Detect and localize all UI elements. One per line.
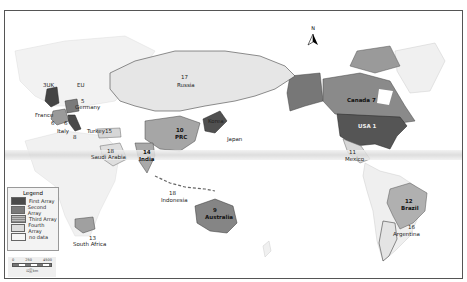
legend-swatch <box>11 206 25 214</box>
label-russia: Russia <box>177 83 195 89</box>
map-frame: N 3UK EU 5 Germany France 6 6 Italy 8 Tu… <box>4 10 463 279</box>
label-argentina-rank: 16 <box>408 225 415 231</box>
legend-item-second-array: Second Array <box>11 205 58 214</box>
label-prc-rank: 10 <box>176 128 184 134</box>
world-map <box>5 11 463 279</box>
legend-item-fourth-array: Fourth Array <box>11 223 58 232</box>
legend-swatch <box>11 224 25 232</box>
label-japan: Japan <box>227 137 242 143</box>
scan-artifact-band <box>5 150 462 160</box>
legend-swatch <box>11 215 26 223</box>
legend-swatch <box>11 197 26 205</box>
label-brazil: Brazil <box>401 206 419 212</box>
label-canada: Canada 7 <box>347 98 376 104</box>
label-indonesia: Indonesia <box>161 198 188 204</box>
north-arrow: N <box>306 25 320 43</box>
legend-swatch <box>11 233 26 241</box>
map-legend: Legend First Array Second Array Third Ar… <box>7 187 59 251</box>
label-india: India <box>139 157 155 163</box>
label-italy-rank: 6 <box>64 121 68 127</box>
label-uk: 3UK <box>43 83 54 89</box>
label-prc: PRC <box>175 135 187 141</box>
label-australia: Australia <box>205 215 233 221</box>
label-russia-rank: 17 <box>181 75 188 81</box>
label-france-rank: 6 <box>51 121 55 127</box>
label-usa: USA 1 <box>358 124 376 130</box>
label-mexico: Mexico <box>345 157 364 163</box>
label-india-rank: 14 <box>143 150 151 156</box>
label-saudi-arabia: Saudi Arabia <box>91 155 126 161</box>
label-australia-rank: 9 <box>213 208 217 214</box>
label-argentina: Argentina <box>393 232 420 238</box>
label-south-africa: South Africa <box>73 242 106 248</box>
label-germany: Germany <box>75 105 100 111</box>
label-indonesia-rank: 18 <box>169 191 176 197</box>
label-turkey: Turkey15 <box>87 129 112 135</box>
label-korea: Korea <box>208 119 224 125</box>
label-italy: Italy <box>57 129 69 135</box>
label-brazil-rank: 12 <box>405 199 413 205</box>
label-mexico-rank: 11 <box>349 150 356 156</box>
scale-bar: 0 250 4500 公里 km <box>8 257 56 277</box>
label-eu: EU <box>77 83 85 89</box>
label-italy-rank-2: 8 <box>73 135 77 141</box>
scale-bar-graphic <box>12 263 52 267</box>
north-arrow-icon <box>306 34 320 46</box>
label-france: France <box>35 113 53 119</box>
